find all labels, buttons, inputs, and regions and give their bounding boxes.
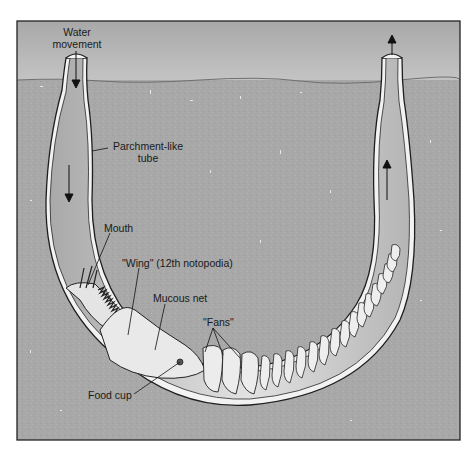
fans — [203, 345, 259, 394]
label-food-cup: Food cup — [88, 389, 132, 401]
burrow-diagram: Water movement Parchment-like tube Mouth… — [0, 0, 471, 455]
label-parchment-line1: Parchment-like — [108, 140, 188, 152]
label-fans: "Fans" — [203, 316, 234, 328]
label-parchment-tube: Parchment-like tube — [108, 140, 188, 164]
label-mouth: Mouth — [104, 222, 133, 234]
label-water-movement-line2: movement — [52, 38, 102, 50]
label-mucous-net: Mucous net — [153, 292, 207, 304]
label-wing: "Wing" (12th notopodia) — [122, 257, 233, 269]
diagram-svg — [0, 0, 471, 455]
label-water-movement-line1: Water — [52, 26, 102, 38]
label-parchment-line2: tube — [108, 152, 188, 164]
label-water-movement: Water movement — [52, 26, 102, 50]
